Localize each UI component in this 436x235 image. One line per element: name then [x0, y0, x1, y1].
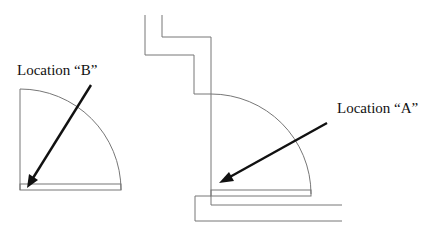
wall-outer	[145, 15, 211, 94]
label-location-a: Location “A”	[337, 101, 418, 116]
wall-bottom	[195, 196, 342, 221]
diagram-canvas	[0, 0, 436, 235]
label-location-b: Location “B”	[17, 63, 97, 78]
door-b-threshold	[20, 184, 121, 190]
door-a-threshold	[211, 190, 311, 196]
arrow-b	[27, 85, 91, 188]
arrow-a	[219, 123, 327, 183]
wall-inner	[162, 15, 342, 205]
